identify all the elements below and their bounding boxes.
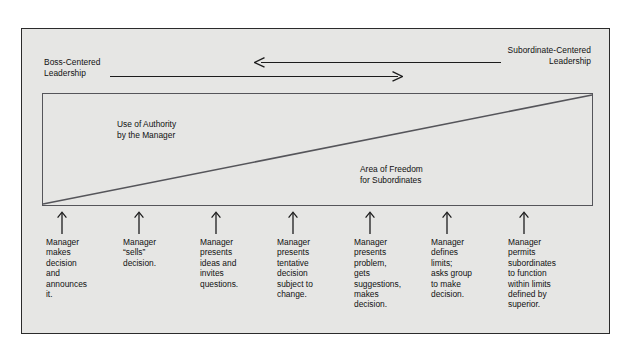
up-arrow-icon-1 — [44, 211, 114, 235]
up-arrow-icon-2 — [121, 211, 191, 235]
area-of-freedom-label: Area of Freedom for Subordinates — [360, 164, 423, 185]
subordinate-centered-leadership-label: Subordinate-Centered Leadership — [508, 45, 591, 66]
behavior-column-3: Manager presents ideas and invites quest… — [198, 211, 268, 289]
behavior-text-4: Manager presents tentative decision subj… — [275, 237, 345, 299]
up-arrow-icon-3 — [198, 211, 268, 235]
behavior-column-1: Manager makes decision and announces it. — [44, 211, 114, 299]
boss-centered-leadership-label: Boss-Centered Leadership — [44, 57, 101, 78]
behavior-column-2: Manager “sells” decision. — [121, 211, 191, 268]
rightward-arrow-head-icon — [392, 71, 403, 82]
behavior-column-4: Manager presents tentative decision subj… — [275, 211, 345, 299]
up-arrow-icon-6 — [429, 211, 499, 235]
up-arrow-icon-7 — [506, 211, 584, 235]
leftward-arrow-head-icon — [254, 57, 265, 68]
authority-freedom-box: Use of Authority by the Manager Area of … — [42, 93, 593, 206]
leftward-arrow-shaft — [261, 62, 501, 63]
up-arrow-icon-5 — [352, 211, 422, 235]
behavior-text-6: Manager defines limits; asks group to ma… — [429, 237, 499, 299]
behavior-column-5: Manager presents problem, gets suggestio… — [352, 211, 422, 310]
behavior-text-5: Manager presents problem, gets suggestio… — [352, 237, 422, 310]
figure-page: Boss-Centered Leadership Subordinate-Cen… — [0, 0, 633, 361]
rightward-arrow-shaft — [110, 76, 398, 77]
authority-freedom-diagonal — [43, 94, 592, 205]
leadership-continuum-figure: Boss-Centered Leadership Subordinate-Cen… — [21, 28, 610, 334]
behavior-column-7: Manager permits subordinates to function… — [506, 211, 584, 310]
behavior-text-2: Manager “sells” decision. — [121, 237, 191, 268]
use-of-authority-label: Use of Authority by the Manager — [117, 119, 176, 140]
behavior-column-6: Manager defines limits; asks group to ma… — [429, 211, 499, 299]
up-arrow-icon-4 — [275, 211, 345, 235]
behavior-text-1: Manager makes decision and announces it. — [44, 237, 114, 299]
behavior-text-7: Manager permits subordinates to function… — [506, 237, 584, 310]
behavior-text-3: Manager presents ideas and invites quest… — [198, 237, 268, 289]
behavior-columns: Manager makes decision and announces it.… — [22, 211, 611, 335]
